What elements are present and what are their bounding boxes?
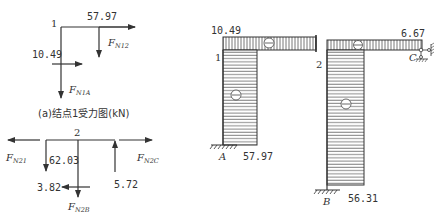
label-F_N2C: FN2C <box>136 152 159 165</box>
node-label-2: 2 <box>74 127 80 138</box>
force-value-5-72: 5.72 <box>114 179 138 190</box>
support-label-A: A <box>218 151 226 162</box>
force-value-62-03: 62.03 <box>49 155 79 166</box>
fixed-support-A <box>210 145 237 149</box>
sign-minus-icon <box>341 99 351 109</box>
node-label-1: 1 <box>51 18 57 29</box>
sign-minus-icon <box>231 90 241 100</box>
sign-minus-icon <box>264 38 274 48</box>
label-F_N21: FN21 <box>5 152 27 165</box>
value-10-49: 10.49 <box>211 25 241 36</box>
value-56-31: 56.31 <box>348 193 378 204</box>
value-6-67: 6.67 <box>401 28 425 39</box>
label-F_N1A: FN1A <box>68 84 91 97</box>
label-F_N12: FN12 <box>107 37 129 50</box>
value-57-97: 57.97 <box>243 151 273 162</box>
axial-force-diagram: 10.49 6.67 1 2 C A 57.97 B 56.31 <box>210 25 434 207</box>
fixed-support-B <box>314 190 340 194</box>
diagram-canvas: 1 57.97 10.49 FN12 FN1A (a)结点1受力图(kN) 2 … <box>0 0 441 222</box>
node2-free-body-diagram: 2 FN21 FN2C 62.03 3.82 5.72 FN2B <box>5 127 159 214</box>
force-value-57-97: 57.97 <box>87 11 117 22</box>
label-F_N2B: FN2B <box>67 201 90 214</box>
force-value-3-82: 3.82 <box>37 182 61 193</box>
sign-minus-icon <box>354 41 363 50</box>
caption-node1: (a)结点1受力图(kN) <box>38 107 129 119</box>
support-label-B: B <box>322 196 330 207</box>
force-value-10-49: 10.49 <box>32 49 62 60</box>
beam-segment-2-C <box>327 40 422 50</box>
node-label-2: 2 <box>316 59 322 70</box>
column-B <box>327 50 364 185</box>
node1-free-body-diagram: 1 57.97 10.49 FN12 FN1A (a)结点1受力图(kN) <box>32 11 135 119</box>
node-label-1: 1 <box>215 52 221 63</box>
support-label-C: C <box>409 52 417 63</box>
